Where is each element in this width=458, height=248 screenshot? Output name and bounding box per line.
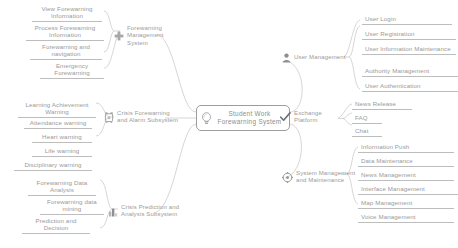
leaf-forewarning-data-analysis[interactable]: Forewarning Data Analysis	[28, 178, 96, 196]
leaf-process-forewarning-information[interactable]: Process Forewarning Information	[26, 23, 104, 41]
leaf-interface-management[interactable]: Interface Management	[358, 184, 458, 195]
leaf-user-registration[interactable]: User Registration	[362, 29, 456, 40]
alarm-clock-icon	[104, 112, 114, 123]
branch-label: Crisis Forewarning and Alarm Subsystem	[117, 110, 181, 125]
bar-chart-icon	[108, 206, 118, 217]
branch-crisis-forewarning-and-alarm-subsystem[interactable]: Crisis Forewarning and Alarm Subsystem	[104, 110, 182, 125]
branch-forewarning-management-system[interactable]: Forewarning Management System	[114, 25, 186, 47]
lightbulb-icon	[201, 112, 212, 125]
branch-crisis-prediction-and-analysis-subsystem[interactable]: Crisis Prediction and Analysis Subsystem	[108, 204, 188, 219]
leaf-user-login[interactable]: User Login	[362, 14, 452, 25]
branch-label: User Management	[294, 54, 346, 61]
leaf-news-release[interactable]: News Release	[352, 99, 412, 110]
branch-exchange-platform[interactable]: Exchange Platform	[280, 110, 336, 125]
branch-label: Forewarning Management System	[127, 25, 185, 47]
leaf-authority-management[interactable]: Authority Management	[362, 66, 458, 77]
branch-label: System Management and Maintenance	[296, 170, 356, 185]
leaf-prediction-and-decision[interactable]: Prediction and Decision	[22, 216, 90, 234]
leaf-user-information-maintenance[interactable]: User Information Maintenance	[362, 44, 456, 55]
leaf-life-warning[interactable]: Life warning	[32, 146, 92, 157]
leaf-forewarning-and-navigation[interactable]: Forewarning and navigation	[30, 42, 102, 60]
check-icon	[280, 112, 291, 122]
leaf-learning-achievement-warning[interactable]: Learning Achievement Warning	[18, 100, 96, 118]
leaf-news-management[interactable]: News Management	[358, 170, 454, 181]
leaf-data-maintenance[interactable]: Data Maintenance	[358, 156, 454, 167]
leaf-disciplinary-warning[interactable]: Disciplinary warning	[14, 160, 92, 171]
leaf-voice-management[interactable]: Voice Management	[358, 212, 454, 223]
leaf-heart-warning[interactable]: Heart warning	[32, 132, 92, 143]
leaf-faq[interactable]: FAQ	[352, 113, 382, 124]
leaf-information-push[interactable]: Information Push	[358, 142, 454, 153]
leaf-view-forewarning-information[interactable]: View Forewarning Information	[32, 4, 102, 22]
leaf-user-authentication[interactable]: User Authentication	[362, 81, 458, 92]
leaf-map-management[interactable]: Map Management	[358, 198, 454, 209]
central-node[interactable]: Student Work Forewarning System	[196, 105, 290, 131]
branch-label: Exchange Platform	[294, 110, 334, 125]
plus-icon	[114, 31, 124, 41]
mindmap-canvas: Student Work Forewarning System Forewarn…	[0, 0, 458, 248]
leaf-attendance-warning[interactable]: Attendance warning	[24, 118, 92, 129]
leaf-forewarning-data-mining[interactable]: Forewarning data mining	[40, 197, 104, 215]
branch-label: Crisis Prediction and Analysis Subsystem	[121, 204, 187, 219]
branch-system-management-and-maintenance[interactable]: System Management and Maintenance	[282, 170, 358, 185]
leaf-emergency-forewarning[interactable]: Emergency Forewarning	[40, 61, 104, 79]
central-node-label: Student Work Forewarning System	[214, 110, 289, 127]
branch-user-management[interactable]: User Management	[282, 53, 346, 63]
leaf-chat[interactable]: Chat	[352, 126, 382, 137]
user-icon	[282, 53, 291, 63]
gear-icon	[282, 172, 293, 183]
